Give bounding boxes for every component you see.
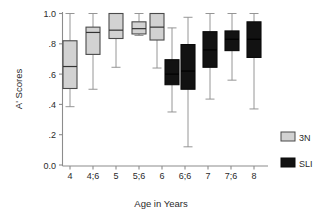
box-body <box>109 14 123 39</box>
chart-legend: 3N SLI <box>281 132 313 169</box>
x-tick-label: 4 <box>67 171 72 181</box>
legend-label-sli: SLI <box>299 159 313 169</box>
x-axis-tick-labels: 4 4;6 5 5;6 6 6;6 7 7;6 8 <box>67 171 256 181</box>
box-plot-3n-4 <box>63 14 77 107</box>
x-tick-label: 8 <box>251 171 256 181</box>
box-body <box>181 45 195 90</box>
y-tick-label: 1.0 <box>43 9 56 19</box>
box-plot-chart: 1.0 .8 .6 .4 .2 0.0 A' Scores 4 4;6 5 5;… <box>0 0 323 221</box>
y-axis-tick-labels: 1.0 .8 .6 .4 .2 0.0 <box>43 9 56 171</box>
legend-label-3n: 3N <box>299 133 311 143</box>
y-tick-label: .4 <box>48 100 56 110</box>
box-plot-3n-5 <box>109 14 123 68</box>
box-plots-layer <box>63 14 261 147</box>
box-plot-sli-6-6 <box>181 17 195 147</box>
x-tick-label: 7;6 <box>225 171 238 181</box>
y-tick-label: .8 <box>48 39 56 49</box>
y-tick-label: .2 <box>48 130 56 140</box>
box-body <box>63 41 77 89</box>
legend-swatch-3n <box>281 132 295 141</box>
box-plot-sli-6 <box>165 28 179 112</box>
legend-swatch-sli <box>281 158 295 167</box>
x-axis-title: Age in Years <box>134 198 188 209</box>
y-tick-label: 0.0 <box>43 161 56 171</box>
x-tick-label: 6 <box>159 171 164 181</box>
x-tick-label: 5;6 <box>133 171 146 181</box>
box-body <box>86 27 100 54</box>
x-tick-label: 7 <box>205 171 210 181</box>
box-plot-sli-7 <box>203 14 217 100</box>
chart-canvas: 1.0 .8 .6 .4 .2 0.0 A' Scores 4 4;6 5 5;… <box>0 0 323 221</box>
x-tick-label: 4;6 <box>87 171 100 181</box>
box-plot-3n-5-6 <box>132 14 146 36</box>
box-body <box>225 31 239 51</box>
x-tick-label: 6;6 <box>179 171 192 181</box>
box-plot-3n-4-6 <box>86 14 100 90</box>
box-plot-sli-8 <box>247 14 261 109</box>
y-tick-label: .6 <box>48 70 56 80</box>
box-body <box>165 60 179 85</box>
box-plot-3n-6 <box>150 14 164 69</box>
box-plot-sli-7-6 <box>225 14 239 81</box>
y-axis-title: A' Scores <box>13 69 24 110</box>
x-tick-label: 5 <box>113 171 118 181</box>
box-body <box>132 22 146 34</box>
